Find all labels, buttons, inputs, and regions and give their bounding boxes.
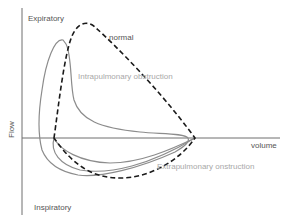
expiratory-label: Expiratory — [28, 15, 64, 23]
volume-axis-label: volume — [251, 142, 277, 150]
extrapulmonary-curve-label: Extrapulmonary onstruction — [157, 163, 254, 171]
intrapulmonary-curve-label: Intrapulmonary obstruction — [78, 73, 173, 81]
normal-curve — [54, 23, 195, 178]
normal-curve-label: normal — [109, 34, 133, 42]
flow-volume-diagram — [0, 0, 289, 223]
intrapulmonary-curve — [39, 40, 188, 176]
flow-axis-label: Flow — [8, 121, 16, 138]
inspiratory-label: Inspiratory — [34, 204, 71, 212]
